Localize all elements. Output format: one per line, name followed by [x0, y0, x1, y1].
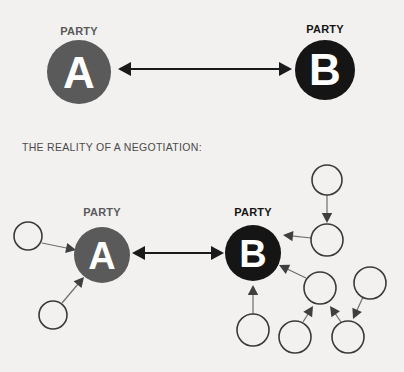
negotiation-diagram: PARTY A PARTY B THE REALITY OF A NEGOTIA… [0, 0, 404, 372]
reality-party-a-label: PARTY [83, 206, 121, 218]
stakeholder-node-b7[interactable] [332, 321, 364, 353]
stakeholder-node-a1[interactable] [14, 222, 42, 250]
stakeholder-node-b5[interactable] [237, 314, 269, 346]
reality-caption: THE REALITY OF A NEGOTIATION: [22, 141, 202, 153]
stakeholder-node-b2[interactable] [311, 224, 343, 256]
stakeholder-node-b6[interactable] [279, 321, 311, 353]
reality-party-b-letter: B [239, 233, 266, 275]
ideal-party-a-letter: A [63, 48, 95, 97]
reality-party-a-letter: A [88, 235, 115, 277]
stakeholder-node-b4[interactable] [354, 267, 386, 299]
ideal-party-b-letter: B [309, 45, 341, 94]
stakeholder-node-b3[interactable] [304, 272, 336, 304]
ideal-party-b-label: PARTY [306, 23, 344, 35]
ideal-party-a-label: PARTY [60, 25, 98, 37]
diagram-canvas: PARTY A PARTY B THE REALITY OF A NEGOTIA… [0, 0, 404, 372]
reality-party-b-label: PARTY [234, 206, 272, 218]
stakeholder-node-b1[interactable] [312, 165, 342, 195]
stakeholder-node-a2[interactable] [39, 301, 67, 329]
